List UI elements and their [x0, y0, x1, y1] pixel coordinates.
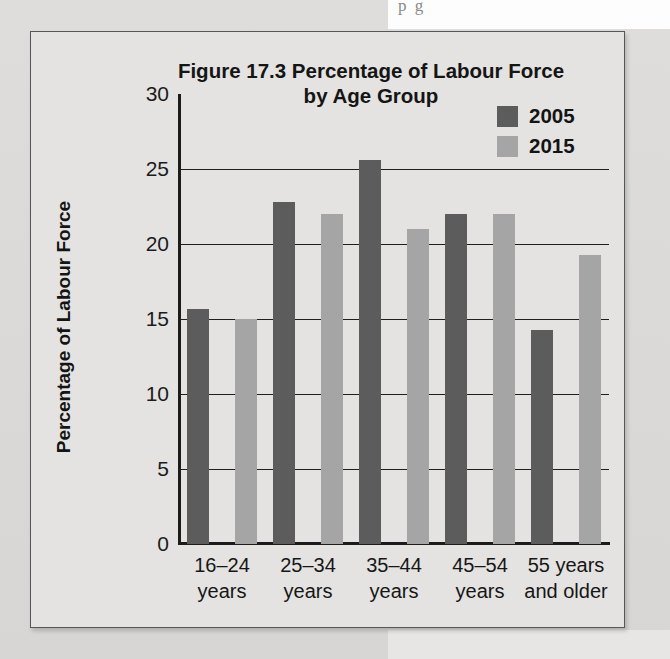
bar-2015: [493, 214, 515, 544]
bar-group: [351, 94, 437, 544]
y-tick-label-30: 30: [146, 82, 169, 106]
page-lower-margin-strip: [388, 630, 670, 659]
x-axis-tick-labels: 16–24 years25–34 years35–44 years45–54 y…: [179, 552, 609, 622]
bar-2015: [321, 214, 343, 544]
chart-title-line-1: Figure 17.3 Percentage of Labour Force: [171, 58, 571, 83]
plot-area: 051015202530: [179, 94, 609, 544]
bar-2015: [407, 229, 429, 544]
bar-2005: [273, 202, 295, 544]
bar-group: [179, 94, 265, 544]
bar-2015: [235, 319, 257, 544]
bar-2005: [187, 309, 209, 545]
x-tick-label: 55 years and older: [511, 552, 621, 605]
y-axis-title: Percentage of Labour Force: [49, 162, 79, 492]
figure-box: Figure 17.3 Percentage of Labour Force b…: [30, 31, 625, 628]
bar-2005: [359, 160, 381, 544]
bar-2015: [579, 255, 601, 545]
y-tick-label-25: 25: [146, 157, 169, 181]
page-bleed-text: p g: [398, 0, 668, 20]
y-tick-label-20: 20: [146, 232, 169, 256]
bar-chart: Figure 17.3 Percentage of Labour Force b…: [31, 32, 624, 627]
bar-group: [437, 94, 523, 544]
bar-2005: [531, 330, 553, 545]
y-axis-title-text: Percentage of Labour Force: [53, 201, 75, 453]
bar-group: [265, 94, 351, 544]
bar-series-container: [179, 94, 609, 544]
y-tick-label-5: 5: [157, 457, 169, 481]
y-tick-label-15: 15: [146, 307, 169, 331]
y-tick-label-10: 10: [146, 382, 169, 406]
bar-2005: [445, 214, 467, 544]
bar-group: [523, 94, 609, 544]
gridline-0: [179, 544, 609, 545]
